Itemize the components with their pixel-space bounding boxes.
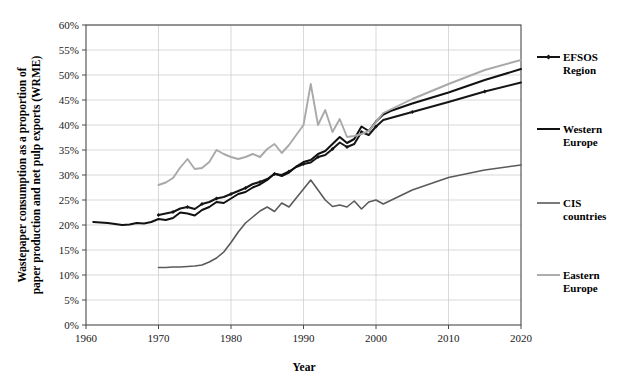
y-tick-label: 35% bbox=[59, 144, 79, 156]
x-tick-label: 2020 bbox=[510, 332, 533, 344]
x-axis-title: Year bbox=[293, 361, 316, 373]
legend-label-line1: EFSOS bbox=[563, 51, 598, 63]
legend-label-line1: Eastern bbox=[563, 269, 600, 281]
chart-figure: 1960197019801990200020102020 0%5%10%15%2… bbox=[0, 0, 622, 383]
legend-label-line2: countries bbox=[563, 210, 607, 222]
line-chart: 1960197019801990200020102020 0%5%10%15%2… bbox=[0, 0, 622, 383]
x-tick-label: 1980 bbox=[220, 332, 243, 344]
y-tick-label: 5% bbox=[64, 294, 79, 306]
y-axis-title-line: Wastepaper consumption as a proportion o… bbox=[16, 67, 28, 282]
legend-label-line2: Region bbox=[563, 64, 596, 76]
legend-label-line1: Western bbox=[563, 123, 602, 135]
x-tick-label: 2000 bbox=[365, 332, 388, 344]
y-tick-label: 60% bbox=[59, 19, 79, 31]
y-tick-label: 20% bbox=[59, 219, 79, 231]
y-tick-label: 0% bbox=[64, 319, 79, 331]
y-tick-label: 10% bbox=[59, 269, 79, 281]
y-axis-title-line: paper production and net pulp exports (W… bbox=[30, 56, 42, 295]
x-tick-label: 1960 bbox=[75, 332, 98, 344]
legend-label-line2: Europe bbox=[563, 136, 598, 148]
legend-label-line2: Europe bbox=[563, 282, 598, 294]
y-tick-label: 40% bbox=[59, 119, 79, 131]
x-tick-label: 1970 bbox=[148, 332, 171, 344]
y-tick-label: 55% bbox=[59, 44, 79, 56]
x-tick-label: 2010 bbox=[438, 332, 461, 344]
y-tick-label: 45% bbox=[59, 94, 79, 106]
y-tick-label: 15% bbox=[59, 244, 79, 256]
legend-label-line1: CIS bbox=[563, 197, 581, 209]
y-tick-label: 25% bbox=[59, 194, 79, 206]
y-tick-label: 30% bbox=[59, 169, 79, 181]
y-tick-label: 50% bbox=[59, 69, 79, 81]
x-tick-label: 1990 bbox=[293, 332, 316, 344]
